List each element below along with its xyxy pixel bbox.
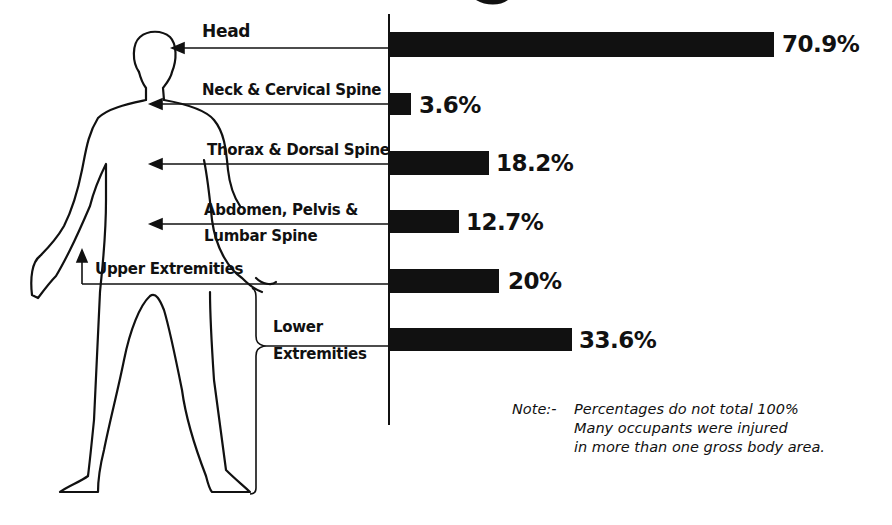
figure-left-leg [60, 292, 250, 492]
label-lower-line1: Lower [273, 319, 323, 336]
value-neck: 3.6% [419, 94, 481, 117]
value-head: 70.9% [782, 33, 859, 56]
title-fragment [476, 0, 508, 5]
bar-abdomen [390, 210, 459, 233]
value-lower-extremities: 33.6% [579, 329, 656, 352]
note-line-3: in more than one gross body area. [574, 439, 825, 455]
label-head: Head [202, 22, 250, 42]
value-abdomen: 12.7% [466, 211, 543, 234]
footnote: Note:-Percentages do not total 100% Many… [512, 400, 825, 457]
note-line-2: Many occupants were injured [574, 420, 788, 436]
bar-upper-extremities [390, 269, 499, 293]
value-upper-extremities: 20% [508, 270, 562, 293]
label-abdomen-line1: Abdomen, Pelvis & [204, 202, 358, 219]
label-abdomen-line2: Lumbar Spine [204, 228, 317, 245]
bar-neck [390, 93, 411, 115]
injury-by-body-area-chart: Head Neck & Cervical Spine Thorax & Dors… [0, 0, 892, 525]
note-line-1: Percentages do not total 100% [574, 401, 799, 417]
bar-head [390, 32, 774, 57]
label-neck-cervical-spine: Neck & Cervical Spine [202, 82, 381, 99]
label-lower-line2: Extremities [273, 346, 367, 363]
note-prefix: Note:- [512, 400, 574, 419]
bar-thorax [390, 151, 489, 175]
label-upper-extremities: Upper Extremities [95, 261, 243, 278]
figure-head-outline [134, 32, 176, 100]
lower-extremities-bracket [250, 288, 264, 494]
label-thorax-dorsal-spine: Thorax & Dorsal Spine [207, 142, 390, 159]
value-thorax: 18.2% [496, 152, 573, 175]
bar-lower-extremities [390, 328, 572, 351]
